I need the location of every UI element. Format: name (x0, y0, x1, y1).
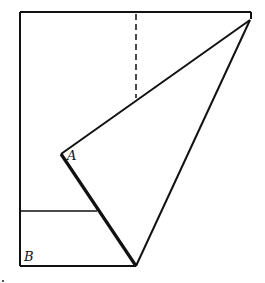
label-b: B (23, 249, 34, 264)
folded-paper-diagram: A B (0, 0, 265, 283)
label-a: A (66, 148, 76, 163)
speck-mark (2, 280, 4, 282)
triangle-right-edge (136, 20, 250, 266)
triangle-upper-edge (61, 20, 250, 154)
fold-edge-thick (61, 154, 136, 266)
